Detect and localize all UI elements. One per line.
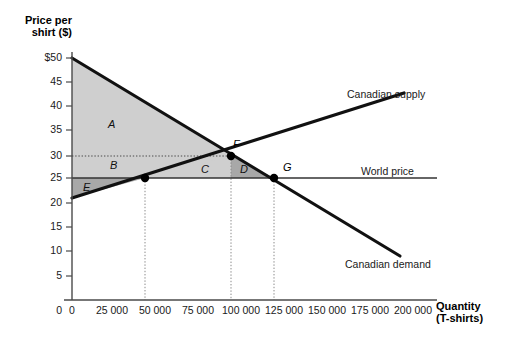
y-tick-label-45: 45 — [28, 75, 62, 87]
y-tick-label-35: 35 — [28, 123, 62, 135]
y-axis-title: Price per shirt ($) — [4, 14, 72, 38]
point-label-g: G — [283, 161, 292, 173]
data-point-f — [227, 152, 235, 160]
y-tick-label-25: 25 — [28, 171, 62, 183]
region-label-b: B — [110, 159, 117, 171]
curve-label-world-price: World price — [361, 165, 414, 177]
region-label-a: A — [108, 118, 115, 130]
point-label-f: F — [233, 138, 240, 150]
y-tick-label-40: 40 — [28, 99, 62, 111]
y-tick-label-10: 10 — [28, 244, 62, 256]
y-tick-label-20: 20 — [28, 196, 62, 208]
supply-demand-plot — [0, 0, 505, 341]
y-tick-label-5: 5 — [28, 269, 62, 281]
region-label-c: C — [201, 163, 209, 175]
curve-label-canadian-demand: Canadian demand — [345, 258, 431, 270]
data-point-50000 — [141, 174, 149, 182]
y-tick-label-30: 30 — [28, 149, 62, 161]
y-tick-label-50: $50 — [28, 51, 62, 63]
curve-label-canadian-supply: Canadian supply — [347, 88, 425, 100]
y-axis-ticks — [66, 58, 72, 276]
y-tick-label-15: 15 — [28, 220, 62, 232]
region-label-d: D — [240, 163, 248, 175]
x-tick-label-200000: 200 000 — [378, 304, 448, 316]
region-label-e: E — [83, 181, 90, 193]
chart-canvas: Price per shirt ($) Quantity (T-shirts) … — [0, 0, 505, 341]
data-point-g — [270, 174, 278, 182]
